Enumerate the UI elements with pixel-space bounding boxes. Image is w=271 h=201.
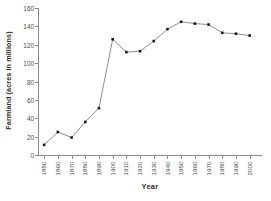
data-point-marker [194, 22, 197, 25]
series-line [44, 22, 250, 145]
y-axis-tick-mark [35, 82, 38, 83]
y-axis-title: Farmland (acres in millions) [0, 0, 16, 160]
y-axis-tick-label: 60 [27, 96, 34, 103]
data-point-marker [180, 20, 183, 23]
y-axis-tick-label: 140 [23, 23, 34, 30]
y-axis-tick-mark [35, 100, 38, 101]
y-axis-tick-mark [35, 26, 38, 27]
data-point-marker [43, 144, 46, 147]
plot-area [38, 8, 262, 156]
y-axis-tick-mark [35, 45, 38, 46]
y-axis-tick-label: 100 [23, 60, 34, 67]
y-axis-tick-label: 40 [27, 115, 34, 122]
y-axis-tick-label: 120 [23, 41, 34, 48]
data-point-marker [152, 40, 155, 43]
y-axis-tick-mark [35, 137, 38, 138]
data-point-marker [221, 32, 224, 35]
x-axis-tick-label-text: 2000 [246, 162, 253, 176]
data-marker-group [43, 20, 251, 146]
data-point-marker [98, 107, 101, 110]
y-axis-title-label: Farmland (acres in millions) [4, 31, 13, 129]
data-point-marker [207, 23, 210, 26]
data-point-marker [139, 50, 142, 53]
data-point-marker [125, 51, 128, 54]
y-axis-tick-label: 20 [27, 133, 34, 140]
data-point-marker [57, 131, 60, 134]
data-point-marker [70, 136, 73, 139]
y-axis-tick-label: 80 [27, 78, 34, 85]
data-point-marker [166, 28, 169, 31]
x-axis-tick-label: 2000 [239, 158, 261, 180]
y-axis-tick-label: 160 [23, 5, 34, 12]
x-axis-tick-label-group: 1850186018701880189019001910192019301940… [38, 158, 262, 180]
y-axis-tick-mark [35, 8, 38, 9]
y-axis-tick-mark [35, 118, 38, 119]
x-axis-title: Year [38, 182, 262, 191]
data-point-marker [84, 121, 87, 124]
y-axis-tick-mark [35, 155, 38, 156]
y-axis-tick-mark [35, 63, 38, 64]
data-point-marker [235, 32, 238, 35]
data-series-farmland [38, 8, 262, 156]
data-point-marker [248, 34, 251, 37]
data-point-marker [111, 38, 114, 41]
farmland-line-chart: Farmland (acres in millions) 02040608010… [0, 0, 271, 201]
